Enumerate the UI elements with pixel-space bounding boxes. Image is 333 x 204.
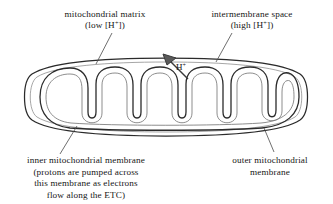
label-matrix-line1: mitochondrial matrix bbox=[37, 9, 173, 20]
label-outer-line1: outer mitochondrial bbox=[210, 155, 330, 167]
proton-arrow-head bbox=[163, 54, 176, 65]
label-inner-line2: (protons are pumped across bbox=[6, 167, 166, 179]
label-inner-line1: inner mitochondrial membrane bbox=[6, 155, 166, 167]
inner-membrane-group bbox=[40, 67, 299, 130]
label-intermembrane-line1: intermembrane space bbox=[182, 9, 322, 20]
label-inner-mitochondrial-membrane: inner mitochondrial membrane (protons ar… bbox=[6, 155, 166, 201]
outer-membrane-group bbox=[25, 58, 308, 136]
label-inner-line4: flow along the ETC) bbox=[6, 190, 166, 202]
label-outer-mitochondrial-membrane: outer mitochondrial membrane bbox=[210, 155, 330, 178]
label-intermembrane-line2: (high [H+]) bbox=[182, 20, 322, 31]
superscript-plus: + bbox=[183, 62, 186, 68]
label-matrix-line2: (low [H+]) bbox=[37, 20, 173, 31]
label-mitochondrial-matrix: mitochondrial matrix (low [H+]) bbox=[37, 9, 173, 31]
inner-membrane-inner-line bbox=[46, 73, 294, 125]
outer-membrane-inner-line bbox=[30, 62, 302, 132]
leader-line-outer-membrane bbox=[264, 128, 274, 152]
label-intermembrane-space: intermembrane space (high [H+]) bbox=[182, 9, 322, 31]
label-inner-line3: this membrane as electrons bbox=[6, 178, 166, 190]
figure-canvas: mitochondrial matrix (low [H+]) intermem… bbox=[0, 0, 333, 204]
proton-label: H+ bbox=[176, 62, 186, 72]
label-outer-line2: membrane bbox=[210, 167, 330, 179]
outer-membrane-outer-line bbox=[25, 58, 308, 136]
leader-line-intermembrane bbox=[216, 33, 232, 62]
